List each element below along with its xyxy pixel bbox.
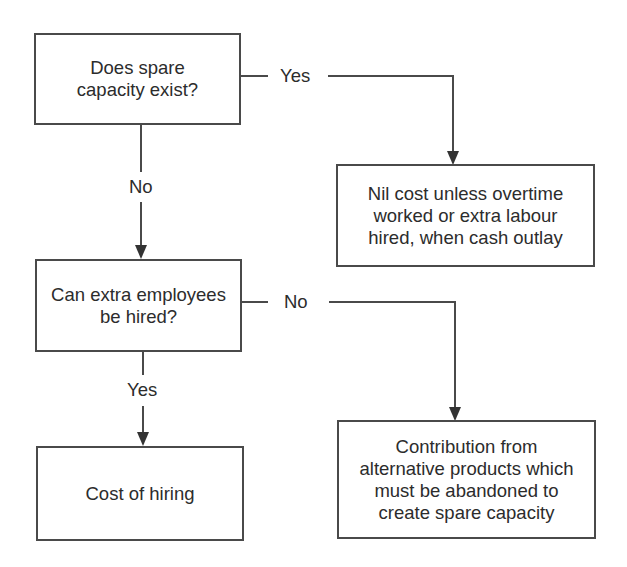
node-text-line: must be abandoned to (360, 480, 574, 502)
edge-label-hire-no: No (284, 292, 308, 312)
node-text-line: create spare capacity (360, 502, 574, 524)
arrowhead-icon (449, 407, 461, 421)
decision-extra-employees: Can extra employees be hired? (35, 259, 242, 352)
node-text-line: hired, when cash outlay (368, 227, 563, 249)
outcome-contribution: Contribution from alternative products w… (337, 420, 596, 539)
node-text-line: worked or extra labour (368, 205, 563, 227)
decision-spare-capacity: Does spare capacity exist? (34, 33, 241, 125)
node-text-line: capacity exist? (77, 79, 198, 101)
node-text-line: Cost of hiring (86, 483, 195, 505)
outcome-nil-cost: Nil cost unless overtime worked or extra… (336, 164, 595, 267)
node-text-line: be hired? (51, 306, 226, 328)
edge-label-spare-no: No (129, 177, 153, 197)
node-text-line: Can extra employees (51, 284, 226, 306)
arrowhead-icon (447, 151, 459, 165)
edge-hire-no (241, 302, 461, 421)
node-text-line: Nil cost unless overtime (368, 183, 563, 205)
outcome-cost-of-hiring: Cost of hiring (36, 446, 244, 541)
edge-label-spare-yes: Yes (280, 66, 310, 86)
arrowhead-icon (137, 432, 149, 446)
node-text-line: Contribution from (360, 436, 574, 458)
node-text-line: alternative products which (360, 458, 574, 480)
edge-spare-yes (240, 76, 459, 165)
node-text-line: Does spare (77, 57, 198, 79)
edge-label-hire-yes: Yes (127, 380, 157, 400)
arrowhead-icon (135, 245, 147, 259)
